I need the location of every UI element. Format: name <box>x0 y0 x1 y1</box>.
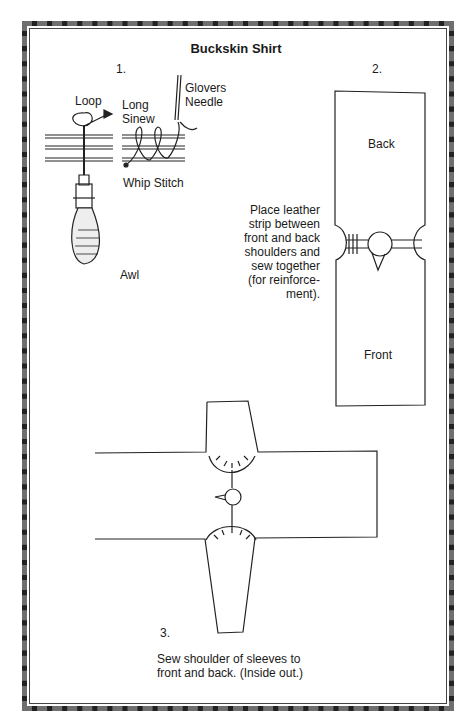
step3-number: 3. <box>160 626 170 640</box>
back-label: Back <box>368 137 395 151</box>
long-sinew-label: Long Sinew <box>122 98 155 126</box>
sleeve-assembly-diagram <box>95 401 377 633</box>
whip-stitch-label: Whip Stitch <box>123 176 184 190</box>
awl-icon <box>72 175 100 264</box>
loop-diagram <box>45 110 113 175</box>
step2-number: 2. <box>372 62 382 76</box>
front-label: Front <box>364 348 392 362</box>
step3-caption: Sew shoulder of sleeves tofront and back… <box>157 652 303 680</box>
step2-caption: Place leatherstrip betweenfront and back… <box>220 203 320 301</box>
loop-label: Loop <box>75 94 102 108</box>
step1-number: 1. <box>116 62 126 76</box>
glovers-needle-label: Glovers Needle <box>185 81 226 109</box>
illustration <box>0 0 472 726</box>
awl-label: Awl <box>120 268 139 282</box>
